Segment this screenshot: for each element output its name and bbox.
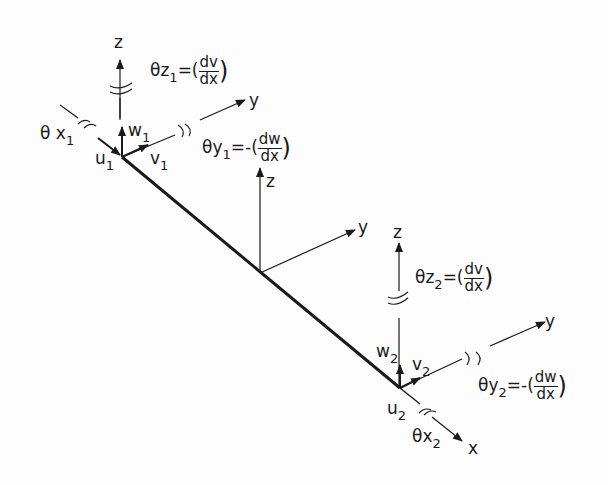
subscript: 2 [390, 351, 398, 366]
subscript: 1 [106, 158, 114, 173]
subscript: 2 [498, 385, 506, 400]
subscript: 1 [222, 147, 230, 162]
subscript: 2 [434, 277, 442, 292]
theta-symbol: θ [40, 123, 50, 143]
denominator: dx [260, 149, 278, 165]
fraction: dwdx [258, 132, 282, 165]
theta-symbol: θ [478, 375, 488, 395]
node2-w-label: w2 [376, 343, 398, 360]
theta-symbol: θ [202, 137, 212, 157]
node1-theta-y-arrows [178, 124, 190, 137]
center-y-label: y [358, 219, 368, 236]
w-letter: w [376, 341, 390, 361]
node2-theta-y-label: θy2=-(dwdx) [478, 370, 567, 403]
v-letter: v [412, 354, 422, 374]
node2-y-axis [400, 359, 462, 388]
denominator: dx [200, 72, 218, 88]
theta-symbol: θ [150, 60, 160, 80]
equals: =( [178, 60, 199, 80]
equals: =-( [507, 375, 534, 395]
node2-v-label: v2 [412, 356, 430, 373]
beam-element-diagram: z θz1=(dvdx) y w1 v1 u1 θ x1 θy1=-(dwdx)… [0, 0, 608, 485]
subscript: 2 [398, 408, 406, 423]
w-letter: w [128, 120, 142, 140]
subscript: 1 [142, 130, 150, 145]
close-paren: ) [484, 264, 493, 292]
fraction: dwdx [534, 370, 558, 403]
denominator: dx [465, 279, 483, 295]
theta-symbol: θ [415, 267, 425, 287]
node2-u-label: u2 [387, 400, 406, 417]
theta-symbol: θ [412, 426, 422, 446]
node1-v-label: v1 [150, 150, 168, 167]
node1-z-label: z [114, 34, 123, 51]
axis-letter: z [160, 60, 169, 80]
node1-theta-y-label: θy1=-(dwdx) [202, 132, 291, 165]
node2-theta-x-arrows [419, 409, 436, 415]
axis-letter: x [422, 426, 432, 446]
diagram-lines [0, 0, 608, 485]
node1-y-label: y [249, 92, 259, 109]
fraction: dvdx [464, 262, 484, 295]
node2-theta-z-arrows [388, 292, 408, 304]
subscript: 1 [160, 158, 168, 173]
subscript: 2 [422, 364, 430, 379]
node1-theta-z-arrows [110, 83, 132, 94]
fraction: dvdx [199, 55, 219, 88]
node1-w-label: w1 [128, 122, 150, 139]
v-letter: v [150, 148, 160, 168]
subscript: 1 [66, 133, 74, 148]
center-z-label: z [266, 173, 275, 190]
u-letter: u [95, 148, 106, 168]
subscript: 2 [432, 436, 440, 451]
close-paren: ) [219, 57, 228, 85]
equals: =-( [231, 137, 258, 157]
denominator: dx [536, 387, 554, 403]
node2-theta-z-label: θz2=(dvdx) [415, 262, 493, 295]
node1-theta-x-arrows [78, 120, 96, 128]
axis-letter: x [56, 123, 66, 143]
axis-letter: z [425, 267, 434, 287]
node2-y-label: y [545, 313, 555, 330]
axis-letter: y [212, 137, 222, 157]
close-paren: ) [558, 372, 567, 400]
axis-letter: y [488, 375, 498, 395]
node1-u-label: u1 [95, 150, 114, 167]
node1-x-axis [60, 105, 78, 118]
center-y-axis [260, 230, 355, 273]
subscript: 1 [169, 70, 177, 85]
node1-theta-x-label: θ x1 [40, 125, 74, 142]
close-paren: ) [282, 134, 291, 162]
node1-theta-z-label: θz1=(dvdx) [150, 55, 228, 88]
node2-theta-x-label: θx2 [412, 428, 441, 445]
node2-x-label: x [468, 440, 478, 457]
equals: =( [443, 267, 464, 287]
node2-theta-y-arrows [465, 352, 480, 365]
node2-z-label: z [393, 224, 402, 241]
u-letter: u [387, 398, 398, 418]
